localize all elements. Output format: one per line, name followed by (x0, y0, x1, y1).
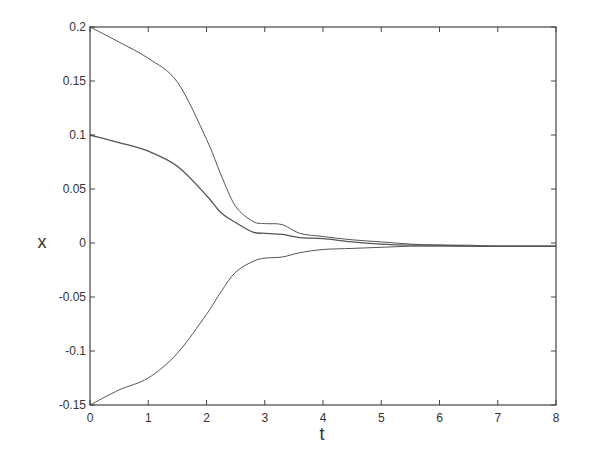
x-tick-label: 7 (494, 411, 501, 425)
x-tick-label: 8 (553, 411, 560, 425)
line-chart: 012345678 -0.15-0.1-0.0500.050.10.150.2 … (0, 0, 592, 463)
y-tick-label: 0 (79, 236, 86, 250)
y-tick-label: 0.1 (69, 128, 86, 142)
x-axis-ticks: 012345678 (87, 27, 560, 425)
x-tick-label: 2 (203, 411, 210, 425)
x-axis-label: t (319, 424, 324, 444)
x-tick-label: 3 (261, 411, 268, 425)
x-tick-label: 1 (145, 411, 152, 425)
x-tick-label: 4 (320, 411, 327, 425)
series-line-1 (90, 27, 556, 246)
y-tick-label: 0.15 (63, 74, 87, 88)
y-tick-label: -0.05 (59, 290, 87, 304)
x-tick-label: 6 (436, 411, 443, 425)
x-tick-label: 5 (378, 411, 385, 425)
y-tick-label: -0.1 (65, 344, 86, 358)
plot-series (90, 27, 556, 405)
y-axis-label: x (38, 232, 47, 252)
plot-frame (90, 27, 556, 405)
y-tick-label: -0.15 (59, 398, 87, 412)
x-tick-label: 0 (87, 411, 94, 425)
y-axis-ticks: -0.15-0.1-0.0500.050.10.150.2 (59, 20, 556, 412)
series-line-2 (90, 135, 556, 246)
y-tick-label: 0.05 (63, 182, 87, 196)
series-line-3 (90, 246, 556, 405)
y-tick-label: 0.2 (69, 20, 86, 34)
